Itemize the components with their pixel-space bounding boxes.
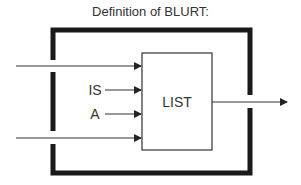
list-box-label: LIST (162, 94, 192, 110)
input-label-is: IS (88, 82, 101, 98)
blurt-diagram: LIST IS A (0, 0, 301, 185)
input-label-a: A (90, 106, 100, 122)
